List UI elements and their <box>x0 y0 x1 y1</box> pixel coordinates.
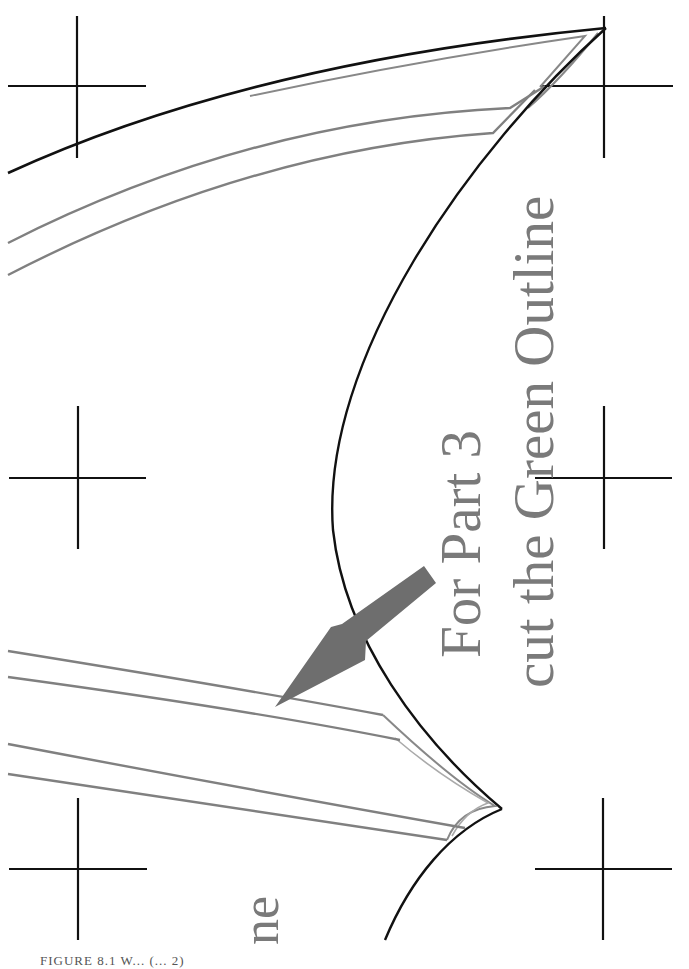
lower-cut-curve <box>385 809 502 940</box>
cusp-seam-line-2 <box>395 738 488 836</box>
pointer-arrow-icon <box>275 566 436 707</box>
registration-mark-middle-left <box>9 406 146 549</box>
instruction-line-1: For Part 3 <box>432 430 489 658</box>
figure-caption: FIGURE 8.1 W... (... 2) <box>40 953 185 969</box>
registration-mark-bottom-left <box>9 798 147 940</box>
partial-label: ne <box>235 896 287 945</box>
registration-mark-bottom-right <box>535 798 672 940</box>
upper-piece-seam-line-1 <box>8 86 545 243</box>
lower-piece-seam-line-3 <box>8 744 465 828</box>
registration-mark-top-left <box>8 16 146 158</box>
upper-piece-seam-line-top <box>250 36 585 96</box>
upper-piece-cut-line <box>8 28 606 173</box>
instruction-line-2: cut the Green Outline <box>505 196 562 688</box>
registration-mark-top-right <box>540 16 673 158</box>
upper-piece-seam-line-2 <box>8 90 535 275</box>
